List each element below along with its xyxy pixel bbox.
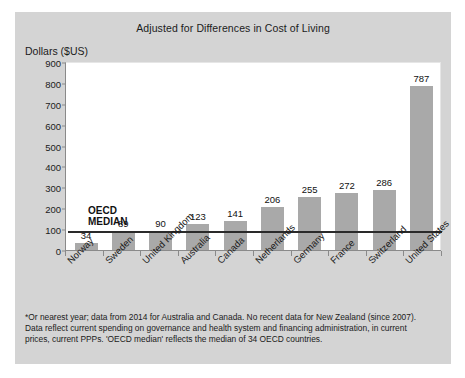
bar-value-label: 141 (217, 208, 254, 219)
y-tick-label: 700 (45, 99, 61, 110)
y-tick-mark (62, 104, 66, 105)
footnote-line-1: *Or nearest year; data from 2014 for Aus… (25, 312, 443, 323)
category-label-cell: Australia (178, 256, 216, 318)
category-label-cell: United Kingdom (140, 256, 178, 318)
bar-cell[interactable]: 255 (291, 63, 328, 250)
y-tick-label: 500 (45, 141, 61, 152)
category-label-cell: Germany (291, 256, 329, 318)
y-tick-label: 400 (45, 162, 61, 173)
category-label-cell: France (328, 256, 366, 318)
bar-cell[interactable]: 206 (254, 63, 291, 250)
footnote-line-3: prices, current PPPs. 'OECD median' refl… (25, 334, 443, 345)
bar[interactable] (410, 86, 433, 250)
footnote-line-2: Data reflect current spending on governa… (25, 323, 443, 334)
chart-panel: Adjusted for Differences in Cost of Livi… (15, 12, 451, 364)
y-tick-mark (62, 230, 66, 231)
category-label-cell: Canada (215, 256, 253, 318)
chart-title: Adjusted for Differences in Cost of Livi… (15, 22, 451, 34)
bar-cell[interactable]: 787 (403, 63, 440, 250)
y-tick-label: 300 (45, 183, 61, 194)
y-tick-mark (62, 188, 66, 189)
bar-value-label: 286 (366, 177, 403, 188)
plot-area: 9008007006005004003002001000 34899012314… (65, 62, 441, 250)
footnote: *Or nearest year; data from 2014 for Aus… (25, 312, 443, 346)
bar-value-label: 787 (403, 73, 440, 84)
category-label-cell: Norway (65, 256, 103, 318)
y-tick-label: 0 (56, 246, 61, 257)
bar-cell[interactable]: 90 (142, 63, 179, 250)
y-tick-label: 900 (45, 58, 61, 69)
bar-value-label: 255 (291, 184, 328, 195)
y-tick-label: 800 (45, 78, 61, 89)
oecd-median-line (68, 231, 443, 233)
category-label-cell: Switzerland (366, 256, 404, 318)
plot-wrapper: 9008007006005004003002001000 34899012314… (51, 62, 441, 258)
y-tick-label: 200 (45, 204, 61, 215)
y-tick-mark (62, 209, 66, 210)
bar-value-label: 206 (254, 194, 291, 205)
category-label-cell: United States (403, 256, 441, 318)
y-tick-mark (62, 83, 66, 84)
x-axis-category-labels: NorwaySwedenUnited KingdomAustraliaCanad… (51, 256, 441, 318)
bar-value-label: 272 (328, 180, 365, 191)
category-label-cell: Netherlands (253, 256, 291, 318)
y-tick-mark (62, 146, 66, 147)
y-tick-mark (62, 167, 66, 168)
bar-cell[interactable]: 286 (366, 63, 403, 250)
category-label-cell: Sweden (103, 256, 141, 318)
bar-cell[interactable]: 141 (217, 63, 254, 250)
y-tick-label: 600 (45, 120, 61, 131)
y-tick-label: 100 (45, 225, 61, 236)
bar-cell[interactable]: 272 (328, 63, 365, 250)
y-tick-mark (62, 63, 66, 64)
y-tick-mark (62, 125, 66, 126)
y-axis-label: Dollars ($US) (25, 45, 88, 57)
x-tick-mark (441, 251, 442, 256)
oecd-median-label: OECD MEDIAN (88, 205, 127, 227)
